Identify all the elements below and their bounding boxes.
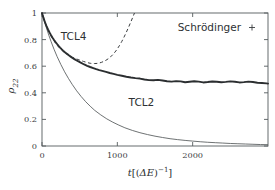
x-tick-label: 1000: [107, 150, 128, 160]
svg-text:ρ22: ρ22: [5, 78, 20, 94]
y-tick-label: 1: [32, 8, 37, 18]
y-tick-label: 0.6: [24, 61, 37, 71]
annotation-tcl2: TCL2: [128, 96, 155, 108]
svg-text:t[(ΔE)−1]: t[(ΔE)−1]: [128, 166, 173, 178]
legend-marker-plus-icon: [249, 25, 255, 31]
y-tick-label: 0.4: [24, 88, 37, 98]
curve-tcl4: [42, 13, 134, 64]
x-tick-label: 2000: [182, 150, 203, 160]
y-tick-label: 0: [32, 141, 37, 151]
legend-label-schrodinger: Schrödinger: [178, 21, 242, 33]
annotation-tcl4: TCL4: [60, 30, 87, 42]
x-axis-label: t[(ΔE)−1]: [128, 166, 173, 178]
y-tick-label: 0.2: [24, 114, 37, 124]
x-tick-label: 0: [39, 150, 44, 160]
plot-figure: 010002000 00.20.40.60.81 TCL4 TCL2 Schrö…: [0, 0, 275, 190]
y-tick-label: 0.8: [24, 35, 37, 45]
legend: Schrödinger: [178, 21, 255, 33]
y-axis-label: ρ22: [5, 78, 20, 94]
